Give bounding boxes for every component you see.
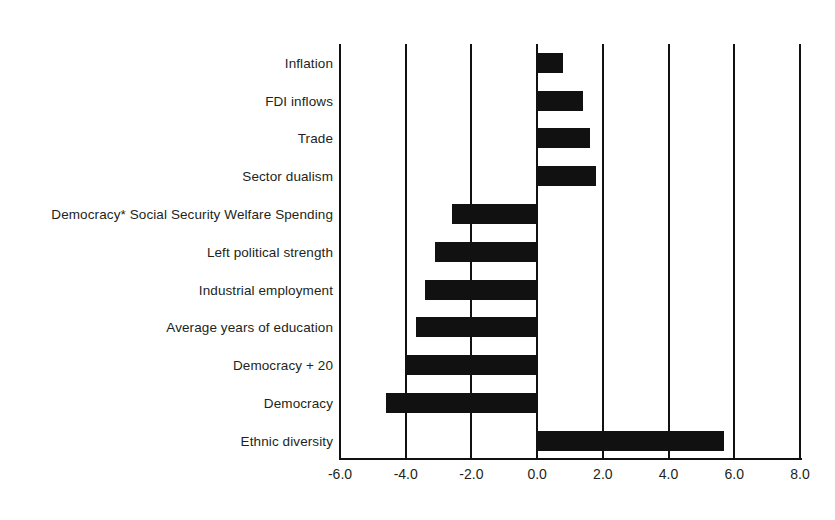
bar: [435, 242, 537, 262]
bar-row: Average years of education: [0, 309, 835, 347]
bar-row: FDI inflows: [0, 82, 835, 120]
tick-label: -2.0: [459, 466, 483, 482]
category-label: Left political strength: [207, 244, 333, 259]
tick-label: -4.0: [394, 466, 418, 482]
tick-label: 0.0: [527, 466, 546, 482]
category-label: Average years of education: [166, 320, 333, 335]
category-label: Trade: [298, 131, 333, 146]
bar-row: Industrial employment: [0, 271, 835, 309]
bar-row: Democracy + 20: [0, 346, 835, 384]
bar-row: Left political strength: [0, 233, 835, 271]
bar: [406, 355, 537, 375]
bar-row: Trade: [0, 120, 835, 158]
bar: [537, 166, 596, 186]
category-label: Industrial employment: [199, 282, 333, 297]
bar-rows: InflationFDI inflowsTradeSector dualismD…: [0, 44, 835, 460]
tick-label: 4.0: [659, 466, 678, 482]
category-label: Inflation: [285, 55, 333, 70]
bar: [537, 431, 724, 451]
bar: [537, 91, 583, 111]
bar: [537, 128, 590, 148]
tick-label: 2.0: [593, 466, 612, 482]
category-label: Democracy + 20: [233, 358, 333, 373]
bar: [416, 317, 538, 337]
bar-row: Sector dualism: [0, 157, 835, 195]
category-label: FDI inflows: [265, 93, 333, 108]
x-axis-tick-labels: -6.0-4.0-2.00.02.04.06.08.0: [340, 466, 800, 492]
category-label: Democracy: [264, 396, 333, 411]
category-label: Sector dualism: [242, 169, 333, 184]
category-label: Democracy* Social Security Welfare Spend…: [51, 207, 333, 222]
bar-chart: InflationFDI inflowsTradeSector dualismD…: [0, 0, 835, 520]
tick-label: -6.0: [328, 466, 352, 482]
bar: [386, 393, 537, 413]
tick-label: 6.0: [725, 466, 744, 482]
bar-row: Democracy: [0, 384, 835, 422]
bar: [452, 204, 537, 224]
tick-label: 8.0: [790, 466, 809, 482]
bar-row: Ethnic diversity: [0, 422, 835, 460]
bar-row: Inflation: [0, 44, 835, 82]
category-label: Ethnic diversity: [241, 433, 333, 448]
bar: [537, 53, 563, 73]
bar: [425, 280, 537, 300]
bar-row: Democracy* Social Security Welfare Spend…: [0, 195, 835, 233]
